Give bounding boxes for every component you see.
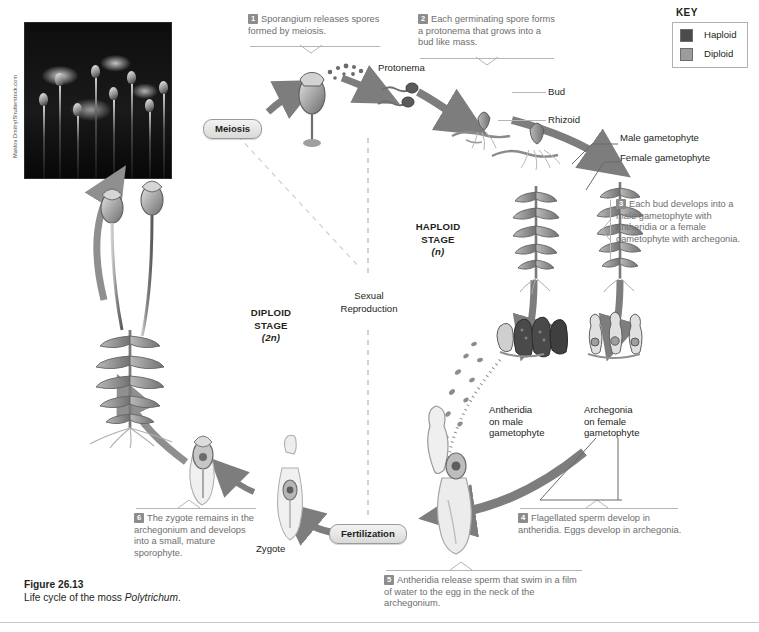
protonema-label: Protonema — [378, 62, 425, 74]
step-number-5: 5 — [384, 575, 394, 585]
sporangium-illustration — [299, 64, 363, 147]
caption-prefix: Life cycle of the moss — [24, 592, 125, 603]
bottom-divider — [0, 622, 759, 623]
step-number-4: 4 — [518, 513, 528, 523]
callout-step-5: 5Antheridia release sperm that swim in a… — [384, 575, 584, 610]
antheridia-label: Antheridia on male gametophyte — [489, 404, 565, 439]
sexual-reproduction-label: Sexual Reproduction — [327, 290, 411, 315]
male-gametophyte-label: Male gametophyte — [620, 132, 699, 144]
fertilization-label[interactable]: Fertilization — [329, 524, 407, 544]
step-text-3: Each bud develops into a male gametophyt… — [616, 199, 740, 244]
diploid-stage-label: DIPLOID STAGE (2n) — [233, 307, 309, 345]
haploid-stage-line2: STAGE — [400, 234, 476, 247]
leader-tick-step-3 — [602, 220, 611, 242]
meiosis-label[interactable]: Meiosis — [203, 119, 262, 139]
antheridia-label-line1: Antheridia — [489, 404, 565, 416]
antheridia-label-line2: on male — [489, 416, 565, 428]
callout-step-6: 6The zygote remains in the archegonium a… — [134, 513, 258, 559]
protonema-illustration — [378, 83, 418, 107]
leader-tick-step-6 — [178, 500, 202, 509]
step-number-1: 1 — [248, 14, 258, 24]
arrow-spores-to-protonema — [342, 78, 376, 92]
arrow-zygote-to-sporophyte — [226, 474, 254, 492]
female-gametophyte-label: Female gametophyte — [620, 152, 710, 164]
archegonia-label-line3: gametophyte — [584, 427, 662, 439]
step-text-1: Sporangium releases spores formed by mei… — [248, 14, 379, 36]
leader-rhizoid — [498, 120, 546, 121]
diploid-stage-line2: STAGE — [233, 320, 309, 333]
figure-caption: Figure 26.13 Life cycle of the moss Poly… — [24, 578, 324, 605]
leader-step-5 — [386, 570, 582, 571]
step-text-5: Antheridia release sperm that swim in a … — [384, 575, 577, 608]
caption-species: Polytrichum — [125, 592, 178, 603]
young-sporophyte-illustration — [190, 436, 214, 505]
step-text-2: Each germinating spore forms a protonema… — [418, 14, 555, 47]
haploid-stage-line3: (n) — [400, 246, 476, 259]
caption-suffix: . — [178, 592, 181, 603]
leader-female-gametophyte — [586, 158, 622, 192]
sexual-reproduction-line2: Reproduction — [327, 303, 411, 316]
diploid-stage-line1: DIPLOID — [233, 307, 309, 320]
haploid-stage-line1: HAPLOID — [400, 221, 476, 234]
leader-archegonia-crossing — [530, 438, 630, 512]
leader-tick-step-1 — [300, 45, 324, 54]
figure-number: Figure 26.13 — [24, 578, 324, 591]
diploid-stage-line3: (2n) — [233, 332, 309, 345]
step-number-2: 2 — [418, 14, 428, 24]
rhizoid-label: Rhizoid — [548, 114, 580, 126]
archegonia-illustration — [588, 312, 642, 358]
callout-step-1: 1Sporangium releases spores formed by me… — [248, 14, 380, 37]
step-number-3: 3 — [616, 199, 626, 209]
leader-tick-step-5 — [450, 562, 474, 571]
sperm-illustration — [443, 341, 484, 442]
callout-step-2: 2Each germinating spore forms a protonem… — [418, 14, 558, 49]
callout-step-4: 4Flagellated sperm develop in antheridia… — [518, 513, 682, 536]
arrow-protonema-to-bud — [418, 92, 462, 120]
archegonia-label: Archegonia on female gametophyte — [584, 404, 662, 439]
step-text-4: Flagellated sperm develop in antheridia.… — [518, 513, 681, 535]
leader-bud — [512, 92, 546, 93]
sexual-reproduction-line1: Sexual — [327, 290, 411, 303]
leader-tick-step-2 — [476, 57, 500, 66]
step-text-6: The zygote remains in the archegonium an… — [134, 513, 254, 558]
meiosis-dashed-link — [238, 136, 360, 268]
figure-caption-text: Life cycle of the moss Polytrichum. — [24, 591, 324, 605]
antheridia-label-line3: gametophyte — [489, 427, 565, 439]
callout-step-3: 3Each bud develops into a male gametophy… — [616, 199, 750, 245]
zygote-illustration — [278, 435, 303, 540]
archegonium-with-zygote-illustration — [428, 406, 472, 554]
arrow-meiosis-to-sporangium — [268, 92, 296, 112]
zygote-label: Zygote — [256, 543, 285, 555]
male-gametophyte-illustration — [513, 186, 559, 294]
archegonia-label-line1: Archegonia — [584, 404, 662, 416]
archegonia-label-line2: on female — [584, 416, 662, 428]
moss-life-cycle-figure: Maslov Dmitry/Shutterstock.com KEY Haplo… — [0, 0, 759, 632]
haploid-stage-label: HAPLOID STAGE (n) — [400, 221, 476, 259]
step-number-6: 6 — [134, 513, 144, 523]
bud-label: Bud — [548, 86, 565, 98]
